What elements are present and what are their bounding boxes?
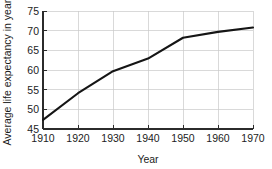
x-tick-label-1910: 1910 xyxy=(31,132,55,144)
y-axis-tick-labels: 75 70 65 60 55 50 45 xyxy=(27,5,39,135)
x-axis-tick-labels: 1910 1920 1930 1940 1950 1960 1970 xyxy=(31,132,265,144)
y-tick-label-55: 55 xyxy=(27,84,39,96)
x-tick-label-1940: 1940 xyxy=(136,132,160,144)
x-tick-label-1950: 1950 xyxy=(171,132,195,144)
y-tick-label-65: 65 xyxy=(27,44,39,56)
x-tick-label-1930: 1930 xyxy=(101,132,125,144)
x-tick-label-1970: 1970 xyxy=(241,132,265,144)
y-tick-label-75: 75 xyxy=(27,5,39,17)
x-tick-label-1960: 1960 xyxy=(206,132,230,144)
chart-canvas: 75 70 65 60 55 50 45 1910 1920 1930 1940… xyxy=(0,0,272,169)
y-tick-label-70: 70 xyxy=(27,25,39,37)
x-tick-label-1920: 1920 xyxy=(66,132,90,144)
line-chart-figure: 75 70 65 60 55 50 45 1910 1920 1930 1940… xyxy=(0,0,272,169)
y-tick-label-50: 50 xyxy=(27,103,39,115)
y-tick-label-60: 60 xyxy=(27,64,39,76)
y-axis-title: Average life expectancy in years xyxy=(1,0,13,145)
x-axis-title: Year xyxy=(137,153,159,165)
